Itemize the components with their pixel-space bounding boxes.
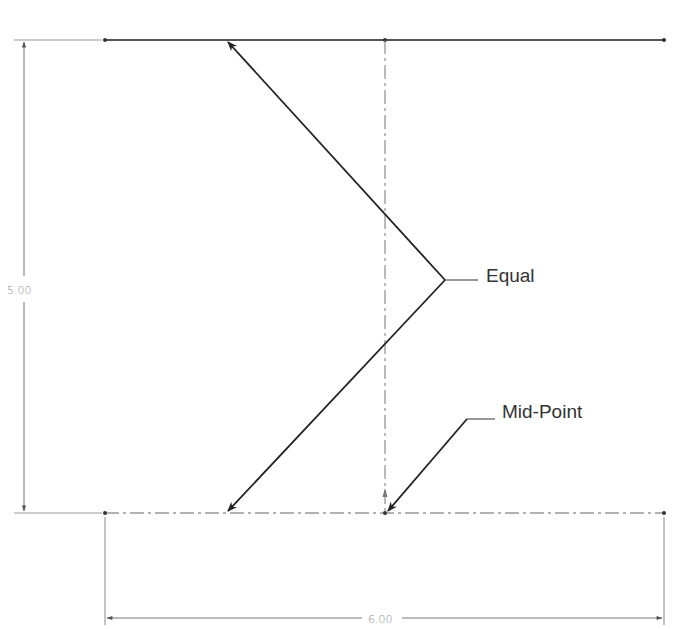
midpoint-label: Mid-Point [502, 401, 583, 422]
horizontal-dimension-value[interactable]: 6.00 [368, 613, 393, 626]
upper-diagonal-line[interactable] [228, 42, 445, 280]
sketch-canvas: 5.00 6.00 Equal Mid-Point [0, 0, 676, 629]
midpoint-leader-arrow [388, 419, 467, 511]
lower-diagonal-line[interactable] [228, 280, 445, 511]
bottom-right-point[interactable] [662, 511, 666, 515]
vertical-arrow-icon [383, 488, 388, 497]
vertical-dimension-value[interactable]: 5.00 [7, 284, 32, 297]
equal-label: Equal [486, 265, 535, 286]
top-right-point[interactable] [662, 38, 666, 42]
top-left-point[interactable] [103, 38, 107, 42]
bottom-left-point[interactable] [103, 511, 107, 515]
